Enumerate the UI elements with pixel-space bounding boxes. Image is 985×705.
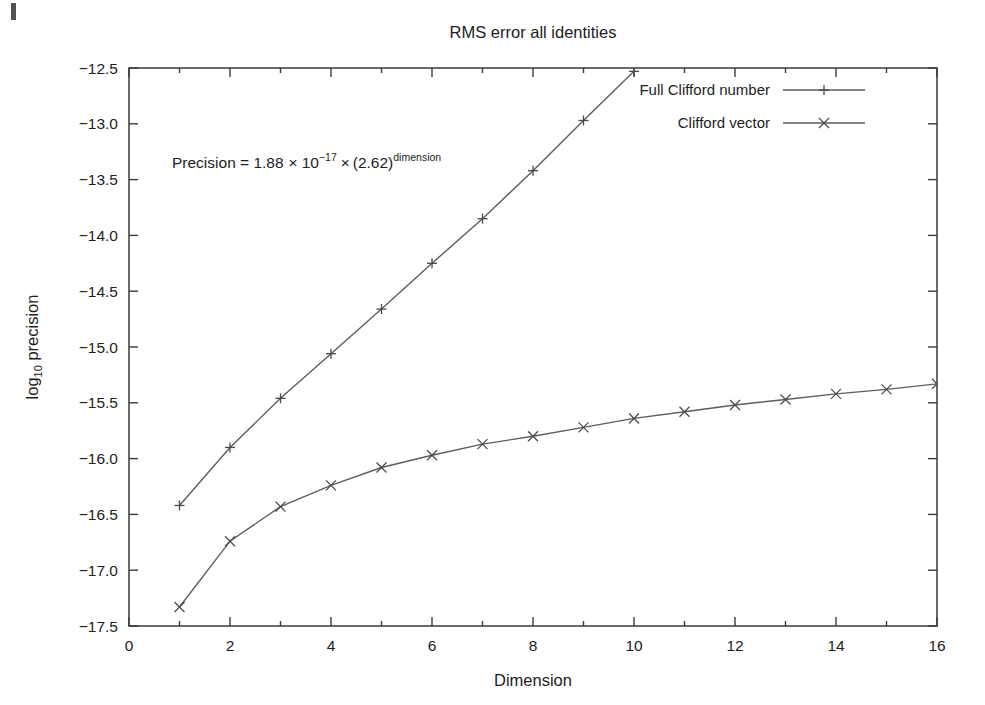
series-2 xyxy=(175,379,943,612)
chart-legend: Full Clifford numberClifford vector xyxy=(639,81,865,131)
data-point-marker xyxy=(326,480,336,490)
x-tick-label: 6 xyxy=(428,637,437,654)
series-line-1 xyxy=(180,71,635,505)
x-axis-tick-labels: 0246810121416 xyxy=(125,637,946,654)
legend-item-1[interactable]: Full Clifford number xyxy=(639,81,865,98)
x-tick-label: 8 xyxy=(529,637,538,654)
annot-base1: 10 xyxy=(302,154,320,171)
axes-frame xyxy=(129,68,937,626)
chart-plot: RMS error all identities 0246810121416 −… xyxy=(0,0,985,705)
data-point-marker xyxy=(225,536,235,546)
data-point-marker xyxy=(276,502,286,512)
x-tick-label: 12 xyxy=(726,637,743,654)
y-tick-label: −13.5 xyxy=(79,171,118,188)
x-tick-label: 2 xyxy=(226,637,235,654)
y-tick-label: −15.5 xyxy=(79,394,118,411)
data-point-marker xyxy=(377,463,387,473)
data-point-marker xyxy=(427,450,437,460)
y-tick-label: −16.5 xyxy=(79,506,118,523)
series-line-2 xyxy=(180,384,938,607)
y-axis-ticks xyxy=(129,68,937,626)
annotation-precision-formula: Precision = 1.88×10−17×(2.62)dimension xyxy=(172,151,441,171)
annot-times2: × xyxy=(341,154,350,171)
annot-base2: (2.62) xyxy=(353,154,394,171)
y-tick-label: −12.5 xyxy=(79,60,118,77)
data-point-marker xyxy=(819,85,829,95)
x-tick-label: 4 xyxy=(327,637,336,654)
svg-text:log10 precision: log10 precision xyxy=(23,295,44,400)
figure-container: RMS error all identities 0246810121416 −… xyxy=(0,0,985,705)
annot-exp1: −17 xyxy=(319,151,337,163)
x-axis-ticks xyxy=(129,68,937,626)
y-axis-tick-labels: −12.5−13.0−13.5−14.0−14.5−15.0−15.5−16.0… xyxy=(79,60,119,635)
y-tick-label: −17.0 xyxy=(79,562,119,579)
legend-item-2[interactable]: Clifford vector xyxy=(678,114,865,131)
y-axis-label-base: log xyxy=(23,377,41,399)
x-tick-label: 10 xyxy=(625,637,643,654)
series-layer xyxy=(175,66,943,612)
y-tick-label: −15.0 xyxy=(79,339,119,356)
legend-label-1: Full Clifford number xyxy=(639,81,770,98)
y-tick-label: −14.5 xyxy=(79,283,118,300)
y-tick-label: −13.0 xyxy=(79,115,119,132)
y-tick-label: −17.5 xyxy=(79,618,118,635)
series-1 xyxy=(175,66,640,510)
x-tick-label: 14 xyxy=(827,637,845,654)
legend-label-2: Clifford vector xyxy=(678,114,770,131)
annot-times1: × xyxy=(289,154,298,171)
x-tick-label: 16 xyxy=(928,637,945,654)
x-tick-label: 0 xyxy=(125,637,134,654)
annot-exp2: dimension xyxy=(393,151,441,163)
annot-lead: Precision = 1.88 xyxy=(172,154,284,171)
y-tick-label: −14.0 xyxy=(79,227,119,244)
svg-text:Precision = 1.88×10−17×(2.62)d: Precision = 1.88×10−17×(2.62)dimension xyxy=(172,151,441,171)
chart-title: RMS error all identities xyxy=(450,23,617,41)
data-point-marker xyxy=(175,602,185,612)
y-axis-label-sub: 10 xyxy=(32,365,44,377)
y-tick-label: −16.0 xyxy=(79,450,119,467)
y-axis-label-rest: precision xyxy=(23,295,41,366)
y-axis-label: log10 precision xyxy=(23,295,44,400)
x-axis-label: Dimension xyxy=(494,671,572,689)
